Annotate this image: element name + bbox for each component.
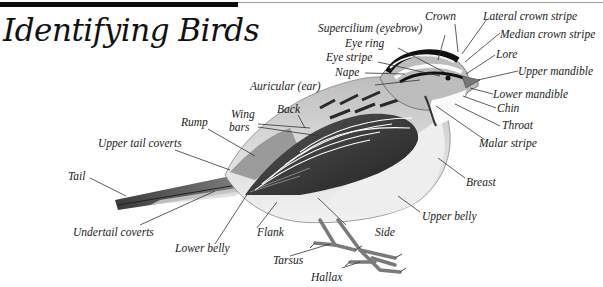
label-chin: Chin <box>497 102 519 114</box>
label-tarsus: Tarsus <box>273 254 303 266</box>
label-nape: Nape <box>335 66 359 78</box>
label-lower-mandible: Lower mandible <box>493 88 568 100</box>
label-eye-stripe: Eye stripe <box>326 51 372 63</box>
label-upper-tail-coverts: Upper tail coverts <box>98 137 182 149</box>
label-flank: Flank <box>257 226 284 238</box>
label-auricular: Auricular (ear) <box>250 80 321 92</box>
label-upper-mandible: Upper mandible <box>518 65 593 77</box>
label-crown: Crown <box>425 10 456 22</box>
label-hallax: Hallax <box>311 271 342 283</box>
label-lateral-crown-stripe: Lateral crown stripe <box>483 10 577 22</box>
label-tail: Tail <box>68 170 85 182</box>
label-upper-belly: Upper belly <box>422 210 477 222</box>
label-undertail-coverts: Undertail coverts <box>73 226 154 238</box>
label-median-crown-stripe: Median crown stripe <box>500 28 595 40</box>
label-side: Side <box>375 226 395 238</box>
label-throat: Throat <box>502 119 533 131</box>
label-lore: Lore <box>496 48 517 60</box>
label-back: Back <box>277 103 300 115</box>
label-eye-ring: Eye ring <box>345 37 384 49</box>
label-wing-bars-line1: Wing <box>231 108 255 120</box>
label-rump: Rump <box>181 116 208 128</box>
label-wing-bars-line2: bars <box>229 121 249 133</box>
label-breast: Breast <box>466 176 496 188</box>
label-lower-belly: Lower belly <box>175 242 230 254</box>
label-malar-stripe: Malar stripe <box>479 137 537 149</box>
label-supercilium: Supercilium (eyebrow) <box>318 22 422 34</box>
